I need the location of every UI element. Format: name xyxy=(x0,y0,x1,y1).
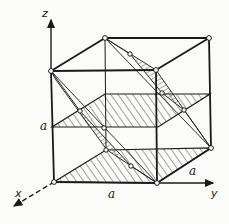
hidden-edges xyxy=(105,38,106,150)
edge-label-bottom-side: a xyxy=(189,165,196,177)
x-axis-label: x xyxy=(15,188,22,199)
y-axis-label: y xyxy=(211,188,218,199)
edge-label-vertical: a xyxy=(40,120,47,132)
edge-label-bottom-front: a xyxy=(108,188,115,200)
z-axis-label: z xyxy=(42,8,48,19)
cube-diagram: z y x a a a xyxy=(0,0,229,224)
